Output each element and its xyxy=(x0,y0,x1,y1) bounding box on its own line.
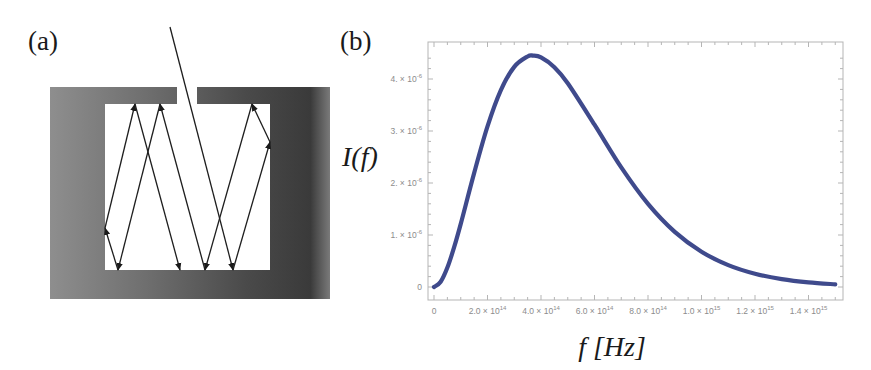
ray-segment xyxy=(105,228,118,270)
plot-frame xyxy=(428,42,843,300)
y-tick-label: 0 xyxy=(417,282,422,292)
y-tick-label: 4. × 10-6 xyxy=(390,73,422,84)
x-tick-label: 1.0 × 1015 xyxy=(683,305,721,316)
ray-segment xyxy=(135,104,180,270)
x-tick-label: 4.0 × 1014 xyxy=(522,305,560,316)
x-tick-label: 0 xyxy=(432,306,437,316)
plot-area: 02.0 × 10144.0 × 10146.0 × 10148.0 × 101… xyxy=(390,42,843,316)
ray-path xyxy=(105,27,270,270)
x-tick-label: 1.2 × 1015 xyxy=(736,305,774,316)
ticks xyxy=(428,42,843,300)
ray-segment xyxy=(105,104,135,228)
x-tick-labels: 02.0 × 10144.0 × 10146.0 × 10148.0 × 101… xyxy=(432,305,828,316)
y-tick-label: 3. × 10-6 xyxy=(390,125,422,136)
panel-a-label: (a) xyxy=(28,26,58,56)
series-line-I-f xyxy=(434,55,835,287)
ray-segment xyxy=(252,104,270,142)
cavity-wall xyxy=(50,87,330,299)
y-tick-labels: 01. × 10-62. × 10-63. × 10-64. × 10-6 xyxy=(390,73,422,292)
x-axis-title: f [Hz] xyxy=(578,331,646,362)
ray-segment xyxy=(160,104,205,270)
figure: (a) (b) I(f) f [Hz] 02.0 × 10144.0 × 101… xyxy=(0,0,871,370)
panel-b-label: (b) xyxy=(340,26,371,56)
incoming-ray xyxy=(170,27,233,270)
x-tick-label: 1.4 × 1015 xyxy=(790,305,828,316)
y-tick-label: 2. × 10-6 xyxy=(390,177,422,188)
cavity xyxy=(50,87,330,299)
ray-segment xyxy=(118,104,160,270)
x-tick-label: 6.0 × 1014 xyxy=(576,305,614,316)
ray-segment xyxy=(233,142,270,270)
x-tick-label: 8.0 × 1014 xyxy=(629,305,667,316)
x-tick-label: 2.0 × 1014 xyxy=(469,305,507,316)
y-axis-title: I(f) xyxy=(341,141,378,172)
y-tick-label: 1. × 10-6 xyxy=(390,229,422,240)
